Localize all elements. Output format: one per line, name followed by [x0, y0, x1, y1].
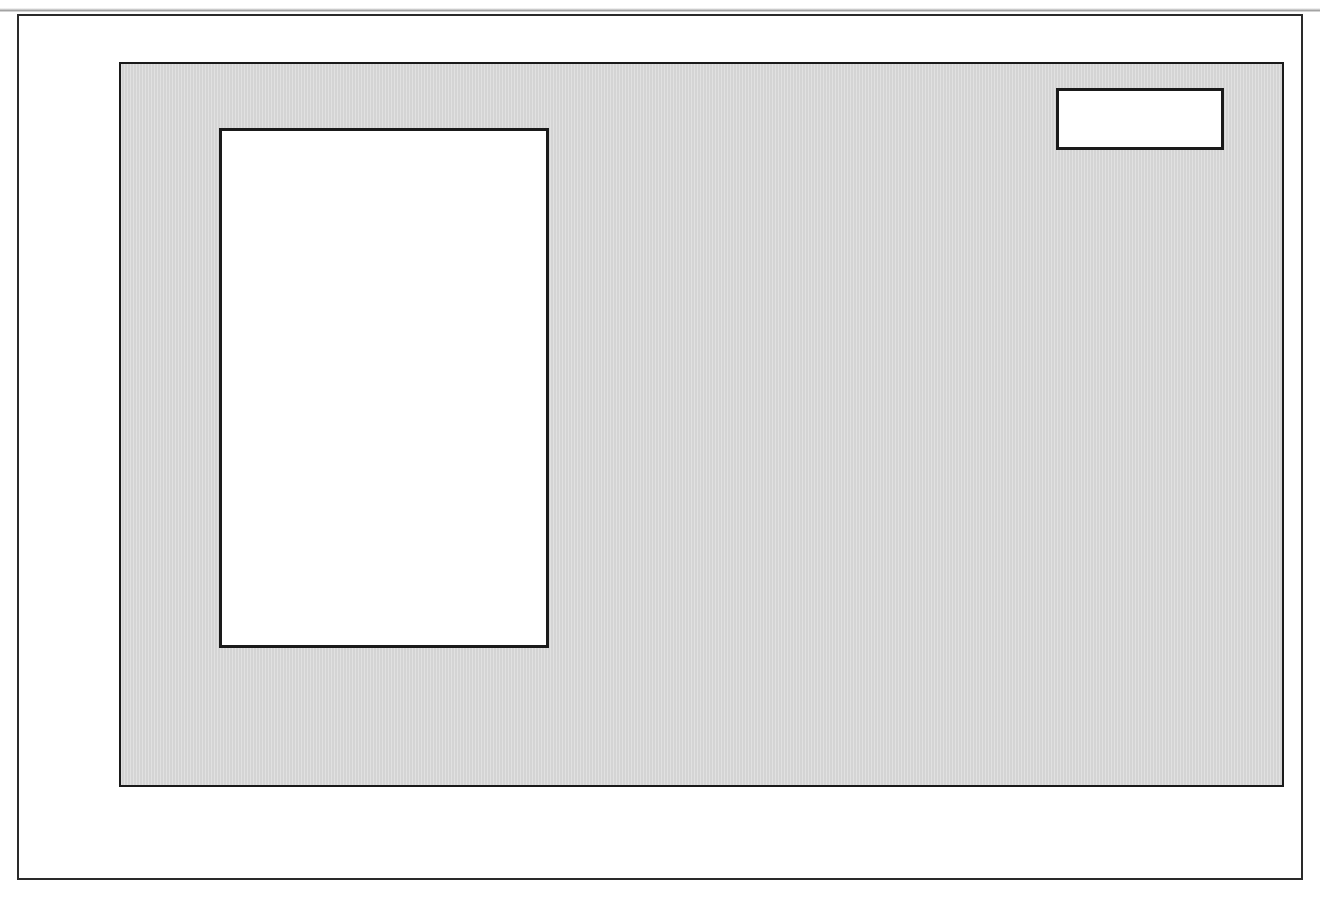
x-axis-tick-marks: {}	[100, 771, 1265, 793]
chart-legend	[219, 128, 549, 648]
scan-artifact-line	[0, 8, 1320, 12]
y-axis-tick-labels	[19, 62, 107, 787]
marker-2010-callout	[1056, 88, 1224, 150]
figure-frame	[17, 14, 1303, 880]
x-axis-tick-labels	[119, 806, 1284, 850]
